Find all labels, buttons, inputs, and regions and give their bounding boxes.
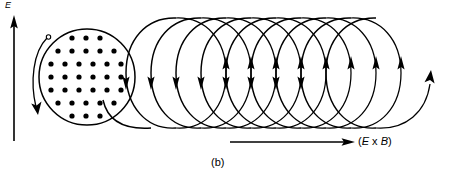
diagram-canvas	[0, 0, 450, 177]
figure-caption: (b)	[211, 157, 224, 168]
helix-back-arcs	[176, 18, 435, 128]
physics-figure-b: E (E x B) (b)	[0, 0, 450, 177]
drift-direction-arrow	[230, 138, 355, 146]
gyration-arc-arrow	[31, 35, 51, 115]
exb-B: B	[381, 135, 388, 147]
exb-operator: x	[369, 135, 381, 147]
e-field-label: E	[5, 1, 11, 10]
exb-E: E	[362, 135, 369, 147]
exb-drift-label: (E x B)	[358, 136, 392, 147]
helix-trajectory	[103, 18, 435, 128]
exb-close-paren: )	[388, 135, 392, 147]
e-field-arrow	[10, 15, 18, 141]
b-field-dot-grid	[48, 35, 123, 118]
